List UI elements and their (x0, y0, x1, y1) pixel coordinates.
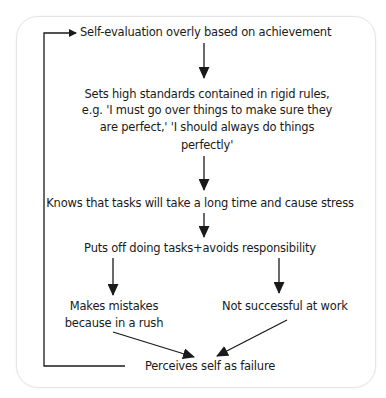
node-mistakes-line-2: because in a rush (56, 315, 172, 331)
node-perceives-failure: Perceives self as failure (140, 358, 280, 374)
node-puts-off: Puts off doing tasks+avoids responsibili… (0, 240, 386, 256)
node-high-standards-line-3: are perfect,' 'I should always do things (0, 119, 386, 135)
arrow-not-successful-to-failure (217, 320, 287, 356)
node-knows-tasks: Knows that tasks will take a long time a… (0, 195, 386, 211)
node-not-successful: Not successful at work (222, 298, 346, 314)
node-high-standards-line-4: perfectly' (0, 137, 386, 153)
node-mistakes-line-1: Makes mistakes (56, 298, 172, 314)
arrow-mistakes-to-failure (113, 332, 194, 357)
node-high-standards-line-1: Sets high standards contained in rigid r… (0, 86, 386, 102)
node-high-standards-line-2: e.g. 'I must go over things to make sure… (0, 102, 386, 118)
node-self-evaluation: Self-evaluation overly based on achievem… (80, 24, 331, 40)
